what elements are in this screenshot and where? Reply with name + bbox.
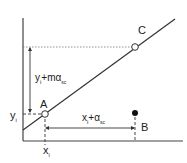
horizontal-arrow-head-left	[45, 126, 49, 130]
point-a	[42, 111, 49, 118]
point-c-label: C	[138, 24, 146, 36]
vertical-annotation-sub2: sc	[61, 79, 67, 85]
point-c	[132, 44, 139, 51]
horizontal-arrow-head-right	[131, 126, 135, 130]
vertical-arrow-head-bottom	[28, 109, 32, 113]
point-a-label: A	[40, 98, 48, 110]
horizontal-annotation: xi+αsc	[82, 112, 105, 125]
y-tick-sub: i	[16, 117, 17, 123]
x-tick-label: xi	[43, 144, 50, 158]
horizontal-annotation-mid: +α	[88, 112, 100, 123]
diagram-canvas: A B C yi xi yi+mαsc xi+αsc	[0, 0, 187, 163]
x-tick-sub: i	[49, 152, 50, 158]
vertical-annotation-mid: +mα	[41, 72, 61, 83]
y-tick-label: yi	[10, 109, 17, 123]
vertical-arrow-head-top	[28, 47, 32, 51]
point-b-label: B	[141, 121, 148, 133]
point-b	[132, 110, 138, 116]
vertical-annotation: yi+mαsc	[35, 72, 67, 85]
horizontal-annotation-sub2: sc	[100, 119, 106, 125]
